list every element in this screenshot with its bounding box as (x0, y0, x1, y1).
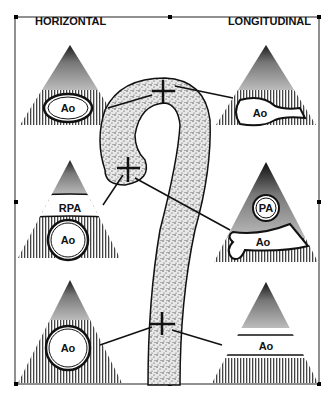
svg-text:Ao: Ao (259, 340, 274, 352)
svg-text:Ao: Ao (253, 107, 268, 119)
label-ao: Ao (61, 102, 76, 114)
longitudinal-bottom-panel (200, 278, 331, 388)
svg-text:Ao: Ao (61, 234, 76, 246)
svg-text:Ao: Ao (61, 342, 76, 354)
svg-text:PA: PA (259, 202, 274, 214)
header-horizontal: HORIZONTAL (35, 15, 106, 27)
header-longitudinal: LONGITUDINAL (228, 15, 311, 27)
svg-text:Ao: Ao (256, 236, 271, 248)
aorta-diagram: Ao RPA Ao Ao Ao PA Ao Ao (0, 0, 331, 398)
svg-text:RPA: RPA (59, 202, 81, 214)
